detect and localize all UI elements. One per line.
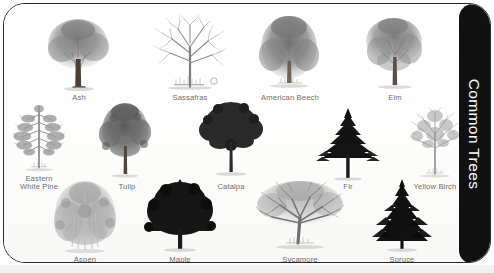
- tree-label: Aspen: [74, 256, 96, 263]
- tree-label: Maple: [169, 256, 190, 263]
- tree-label: Elm: [388, 94, 402, 102]
- tree-illustration-aspen: [48, 177, 122, 255]
- tree-illustration-sassafras: [150, 13, 230, 93]
- tree-illustration-american-beech: [254, 13, 326, 93]
- sidebar-title-tab: Common Trees: [459, 4, 490, 263]
- page-bottom-band: [0, 265, 494, 273]
- tree-label: Catalpa: [217, 183, 244, 191]
- tree-item-aspen[interactable]: Aspen: [48, 176, 122, 263]
- tree-illustration-spruce: [370, 177, 434, 255]
- tree-illustration-yellow-birch: [404, 102, 466, 182]
- tree-label: Fir: [343, 183, 352, 191]
- tree-label: Spruce: [390, 256, 415, 263]
- tree-illustration-eastern-white-pine: [7, 99, 71, 174]
- tree-illustration-elm: [359, 13, 431, 93]
- common-trees-card: Ash: [3, 3, 491, 263]
- page-background: Ash: [0, 0, 494, 273]
- tree-illustration-catalpa: [196, 100, 266, 182]
- tree-label: Sycamore: [282, 256, 317, 263]
- tree-item-sycamore[interactable]: Sycamore: [256, 176, 344, 263]
- tree-illustration-tulip: [94, 100, 160, 182]
- tree-illustration-maple: [144, 177, 216, 255]
- tree-illustration-sycamore: [256, 177, 344, 255]
- tree-item-maple[interactable]: Maple: [144, 176, 216, 263]
- tree-item-american-beech[interactable]: American Beech: [254, 12, 326, 102]
- tree-item-ash[interactable]: Ash: [42, 12, 116, 102]
- tree-item-sassafras[interactable]: Sassafras: [150, 12, 230, 102]
- tree-illustration-fir: [316, 104, 380, 182]
- tree-item-elm[interactable]: Elm: [359, 12, 431, 102]
- tree-item-spruce[interactable]: Spruce: [370, 176, 434, 263]
- page-title: Common Trees: [466, 79, 484, 190]
- tree-illustration-ash: [42, 13, 116, 93]
- tree-label: American Beech: [261, 94, 319, 102]
- tree-label: Ash: [72, 94, 86, 102]
